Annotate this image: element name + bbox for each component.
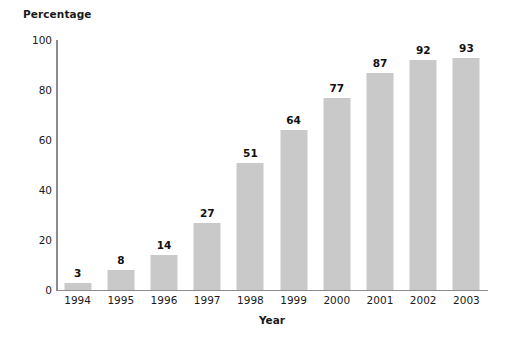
y-axis-tick-label: 0 xyxy=(4,284,52,296)
y-axis-tick-label: 80 xyxy=(4,84,52,96)
bar-value-label: 51 xyxy=(243,147,258,159)
bars-container: 3199481995141996271997511998641999772000… xyxy=(56,0,488,345)
x-axis-tick-label: 1998 xyxy=(237,294,264,306)
x-axis-tick-label: 1994 xyxy=(64,294,91,306)
bar-group: 141996 xyxy=(142,0,185,345)
bar-group: 641999 xyxy=(272,0,315,345)
x-axis-tick-label: 2000 xyxy=(323,294,350,306)
bar-value-label: 3 xyxy=(74,267,81,279)
bar-group: 772000 xyxy=(315,0,358,345)
bar-group: 511998 xyxy=(229,0,272,345)
bar-value-label: 64 xyxy=(286,114,301,126)
bar xyxy=(280,130,307,290)
x-axis-title: Year xyxy=(56,314,488,326)
bar-chart: Percentage 020406080100 3199481995141996… xyxy=(0,0,505,345)
bar xyxy=(237,163,264,291)
x-axis-tick-label: 2003 xyxy=(453,294,480,306)
bar xyxy=(150,255,177,290)
bar-value-label: 87 xyxy=(373,57,388,69)
x-axis-tick-label: 1999 xyxy=(280,294,307,306)
bar xyxy=(107,270,134,290)
bar-group: 31994 xyxy=(56,0,99,345)
bar-value-label: 8 xyxy=(117,254,124,266)
x-axis-tick-label: 2002 xyxy=(410,294,437,306)
y-axis-tick-label: 40 xyxy=(4,184,52,196)
bar-value-label: 14 xyxy=(157,239,172,251)
bar-value-label: 93 xyxy=(459,42,474,54)
bar-group: 81995 xyxy=(99,0,142,345)
y-axis-tick-labels: 020406080100 xyxy=(0,0,52,345)
bar xyxy=(323,98,350,291)
y-axis-tick-label: 60 xyxy=(4,134,52,146)
x-axis-tick-label: 2001 xyxy=(367,294,394,306)
bar-value-label: 27 xyxy=(200,207,215,219)
x-axis-tick-label: 1997 xyxy=(194,294,221,306)
y-axis-tick-label: 100 xyxy=(4,34,52,46)
bar xyxy=(194,223,221,291)
y-axis-tick-label: 20 xyxy=(4,234,52,246)
bar-group: 271997 xyxy=(186,0,229,345)
x-axis-tick-label: 1995 xyxy=(107,294,134,306)
bar xyxy=(64,283,91,291)
x-axis-tick-label: 1996 xyxy=(151,294,178,306)
bar-value-label: 92 xyxy=(416,44,431,56)
bar xyxy=(366,73,393,291)
bar xyxy=(453,58,480,291)
bar-value-label: 77 xyxy=(329,82,344,94)
bar xyxy=(410,60,437,290)
bar-group: 932003 xyxy=(445,0,488,345)
bar-group: 922002 xyxy=(402,0,445,345)
bar-group: 872001 xyxy=(358,0,401,345)
